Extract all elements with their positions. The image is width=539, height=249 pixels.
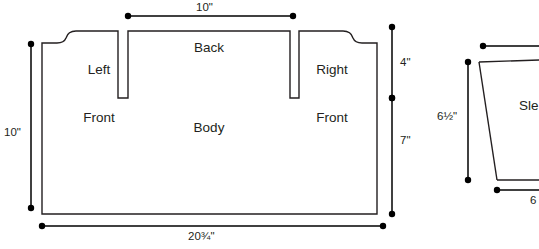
dimension-sleeve-bottom (494, 187, 539, 193)
piece-label-left-front-line1: Left (72, 62, 126, 78)
dimension-label-sleeve-height: 6½" (437, 110, 457, 124)
piece-label-left-front-line2: Front (72, 110, 126, 126)
piece-label-body: Body (178, 120, 240, 136)
dimension-left-height (28, 41, 34, 211)
piece-label-right-front-line1: Right (304, 62, 360, 78)
piece-label-right-front-line2: Front (304, 110, 360, 126)
sleeve-dimension-lines (465, 43, 539, 193)
dimension-sleeve-top (480, 43, 539, 49)
piece-label-back: Back (178, 40, 240, 56)
dimension-label-bottom-width: 20¾" (188, 230, 214, 244)
schematic-canvas: Left Front Back Right Front Body Sle 10"… (0, 0, 539, 249)
piece-label-sleeve: Sle (519, 98, 539, 114)
dimension-label-top-width: 10" (196, 1, 213, 15)
piece-label-left-front: Left Front (72, 30, 126, 157)
dimension-label-left-height: 10" (4, 126, 21, 140)
dimension-label-sleeve-bottom: 6 (530, 194, 536, 208)
dimension-sleeve-height (465, 59, 471, 183)
dimension-label-right-upper: 4" (400, 56, 410, 70)
sleeve-piece-outline (479, 60, 539, 180)
dimension-right-lower (389, 95, 395, 217)
dimension-right-upper (389, 24, 395, 101)
dimension-label-right-lower: 7" (400, 134, 410, 148)
piece-label-right-front: Right Front (304, 30, 360, 157)
dimension-bottom-width (39, 223, 386, 229)
